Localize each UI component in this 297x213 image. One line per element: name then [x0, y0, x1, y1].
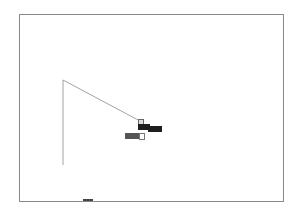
field-checkbox[interactable]: [139, 133, 145, 140]
field-text: [125, 133, 139, 139]
bottom-scroll-handle[interactable]: [83, 199, 93, 201]
diagonal-line: [63, 80, 140, 121]
connector-lines: [0, 0, 297, 213]
node-label-b[interactable]: [148, 126, 162, 132]
label-field[interactable]: [125, 133, 145, 139]
